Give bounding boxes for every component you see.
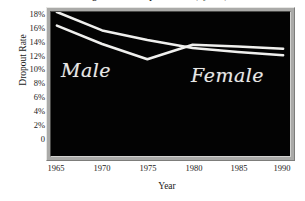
x-tick-label: 1990 bbox=[262, 163, 302, 173]
chart-figure: High School Dropout Rates (by Sex) Dropo… bbox=[0, 0, 305, 201]
x-tick-label: 1970 bbox=[82, 163, 122, 173]
x-tick-label: 1985 bbox=[219, 163, 259, 173]
x-tick-label: 1980 bbox=[174, 163, 214, 173]
x-axis-label: Year bbox=[49, 181, 285, 191]
x-tick-label: 1965 bbox=[36, 163, 76, 173]
x-tick-label: 1975 bbox=[128, 163, 168, 173]
x-axis-ticks: 1965 1970 1975 1980 1985 1990 bbox=[0, 0, 305, 201]
